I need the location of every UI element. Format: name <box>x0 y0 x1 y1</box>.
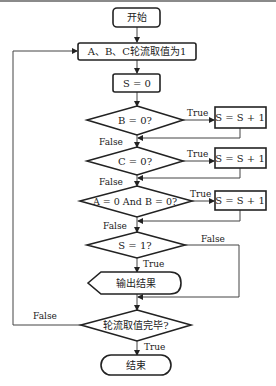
condb-true-label: True <box>187 108 208 118</box>
edge-done-false-loop <box>13 51 81 325</box>
flowchart: 开始 A、B、C轮流取值为1 S = 0 B = 0? S = S + 1 C … <box>0 0 276 386</box>
condab-false-label: False <box>103 221 127 231</box>
done-true-label: True <box>144 342 165 352</box>
start-label: 开始 <box>127 11 147 23</box>
condc-label: C = 0? <box>118 156 152 167</box>
init-label: A、B、C轮流取值为1 <box>87 45 187 57</box>
condab-true-label: True <box>190 189 211 199</box>
condb-label: B = 0? <box>118 115 152 126</box>
end-label: 结束 <box>126 359 146 371</box>
incb-label: S = S + 1 <box>215 112 265 123</box>
condc-true-label: True <box>187 149 208 159</box>
incab-label: S = S + 1 <box>215 195 265 206</box>
szero-label: S = 0 <box>123 78 151 89</box>
done-false-label: False <box>33 311 57 321</box>
condc-false-label: False <box>99 177 123 187</box>
conds-true-label: True <box>143 259 164 269</box>
conds-false-label: False <box>201 234 225 244</box>
incc-label: S = S + 1 <box>215 153 265 164</box>
done-label: 轮流取值完毕? <box>103 319 168 331</box>
condb-false-label: False <box>99 137 123 147</box>
condab-label: A = 0 And B = 0? <box>92 196 177 207</box>
output-label: 输出结果 <box>116 277 156 289</box>
conds-label: S = 1? <box>118 240 151 251</box>
